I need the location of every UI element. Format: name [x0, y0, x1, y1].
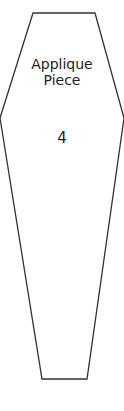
piece-title-line2: Piece [0, 72, 124, 88]
piece-title-line1: Applique [0, 56, 124, 72]
piece-title: Applique Piece [0, 56, 124, 88]
piece-number: 4 [0, 130, 124, 146]
